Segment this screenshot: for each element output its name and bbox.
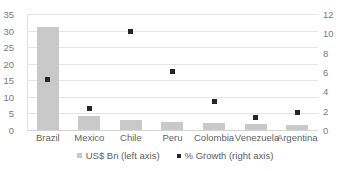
chart-column [193,14,235,130]
category-label: Chile [110,133,152,143]
category-label: Mexico [69,133,111,143]
chart-container: 05101520253035 024681012 BrazilMexicoChi… [0,0,350,171]
chart-column [235,14,277,130]
plot-area [27,14,318,130]
data-point-marker [87,106,92,111]
category-label: Brazil [27,133,69,143]
legend-label: % Growth (right axis) [185,151,274,161]
category-label: Venezuela [235,133,277,143]
right-axis-tick: 8 [323,49,328,59]
data-point-marker [212,99,217,104]
data-point-marker [295,110,300,115]
bar [203,123,225,130]
left-axis-tick: 35 [3,10,14,20]
left-axis-tick: 10 [3,93,14,103]
chart-column [152,14,194,130]
data-point-marker [170,69,175,74]
chart-legend: US$ Bn (left axis)% Growth (right axis) [0,151,350,161]
chart-column [69,14,111,130]
data-point-marker [45,77,50,82]
square-swatch-icon [77,153,82,158]
legend-label: US$ Bn (left axis) [86,151,160,161]
legend-entry[interactable]: % Growth (right axis) [177,151,274,161]
category-label: Colombia [193,133,235,143]
right-axis-tick: 10 [323,29,334,39]
bar [286,125,308,130]
left-axis-tick: 25 [3,43,14,53]
axis-baseline [27,130,318,131]
left-axis-tick: 15 [3,76,14,86]
bar [78,116,100,130]
right-axis-tick: 4 [323,87,328,97]
chart-column [27,14,69,130]
data-point-marker [128,29,133,34]
chart-column [276,14,318,130]
left-axis-tick: 30 [3,27,14,37]
right-axis-tick: 6 [323,68,328,78]
right-axis-tick: 2 [323,107,328,117]
right-axis-tick: 0 [323,126,328,136]
bar [161,122,183,130]
category-label: Argentina [276,133,318,143]
category-label: Peru [152,133,194,143]
data-point-marker [253,115,258,120]
bar [245,124,267,130]
left-axis-tick: 0 [9,126,14,136]
left-axis-tick: 5 [9,109,14,119]
bar [120,120,142,130]
right-axis-tick: 12 [323,10,334,20]
dot-marker-icon [177,154,181,158]
legend-entry[interactable]: US$ Bn (left axis) [77,151,160,161]
left-axis-tick: 20 [3,60,14,70]
chart-column [110,14,152,130]
